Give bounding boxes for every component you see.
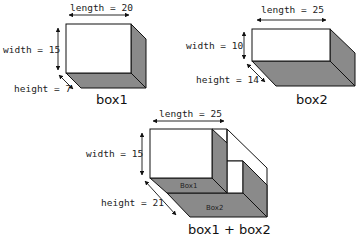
combined-figure: Box1 Box2 length = 25 width = 15 height …	[86, 108, 271, 237]
combined-inner-label-box1: Box1	[180, 182, 197, 190]
combined-length-label: length = 25	[159, 108, 222, 119]
box2-length-label: length = 25	[261, 4, 324, 15]
box2-caption: box2	[296, 92, 328, 107]
boxes-diagram: length = 20 width = 15 height = 7 box1 l…	[0, 0, 356, 238]
box1-height-label: height = 7	[14, 83, 71, 94]
box2-figure: length = 25 width = 10 height = 14 box2	[186, 4, 355, 107]
box1-length-label: length = 20	[70, 2, 133, 13]
combined-caption: box1 + box2	[188, 222, 271, 237]
box2-width-label: width = 10	[186, 40, 243, 51]
box1-caption: box1	[96, 92, 128, 107]
box2-height-label: height = 14	[196, 74, 259, 85]
box2-front-face	[252, 29, 330, 61]
combined-inner-label-box2: Box2	[206, 204, 223, 212]
combined-front-face	[150, 129, 212, 178]
combined-width-label: width = 15	[86, 148, 143, 159]
box1-front-face	[66, 24, 131, 73]
combined-inner-recess	[227, 161, 243, 193]
box1-width-label: width = 15	[3, 44, 60, 55]
combined-height-label: height = 21	[101, 197, 164, 208]
box1-figure: length = 20 width = 15 height = 7 box1	[3, 2, 146, 107]
